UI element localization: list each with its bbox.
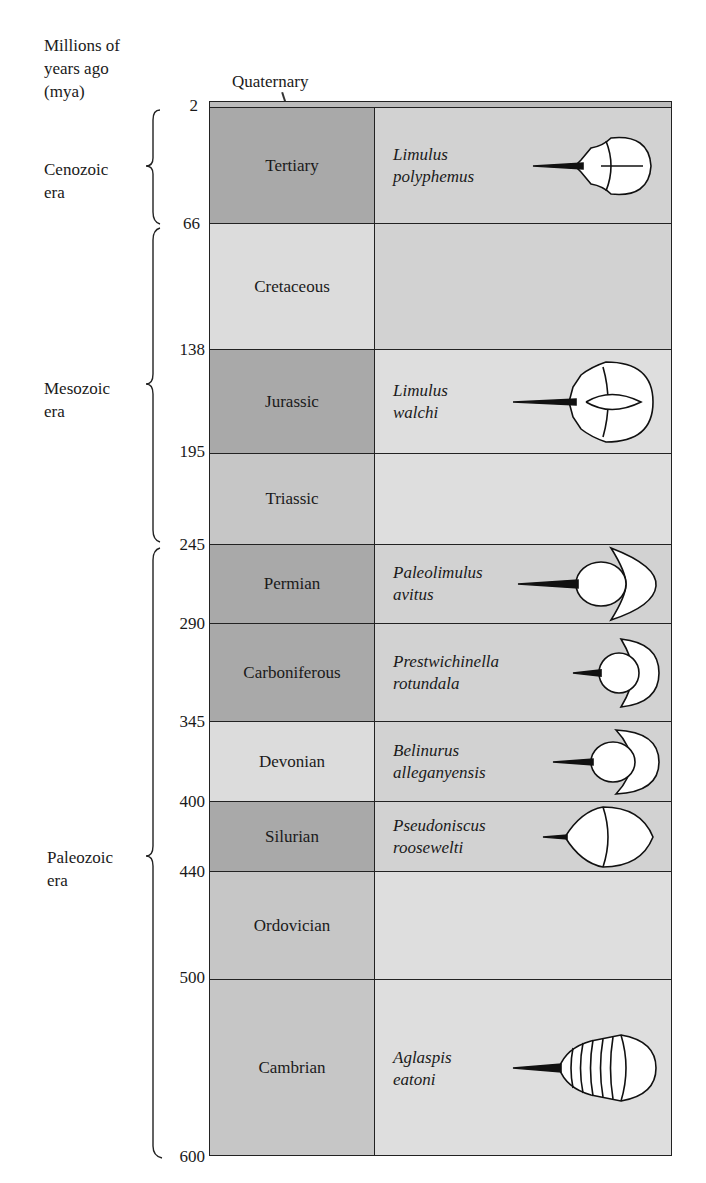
species: roosewelti: [393, 837, 486, 859]
genus: Paleolimulus: [393, 562, 483, 584]
fossil-cell: Paleolimulusavitus: [375, 545, 671, 623]
fossil-cell: Limuluswalchi: [375, 350, 671, 453]
geologic-time-table: Tertiary Limuluspolyphemus Cretaceous Ju…: [209, 101, 672, 1156]
prestwichinella-rotundala-icon: [571, 637, 661, 709]
species-name: Belinurusalleganyensis: [393, 740, 486, 784]
fossil-cell: [375, 872, 671, 979]
limulus-walchi-icon: [511, 357, 661, 447]
species: polyphemus: [393, 166, 474, 188]
row-ordovician: Ordovician: [210, 871, 671, 979]
species-name: Prestwichinellarotundala: [393, 651, 499, 695]
period-cambrian: Cambrian: [210, 980, 375, 1155]
period-carboniferous: Carboniferous: [210, 624, 375, 721]
belinurus-alleganyensis-icon: [551, 728, 661, 796]
fossil-cell: Pseudoniscusroosewelti: [375, 802, 671, 871]
aglaspis-eatoni-icon: [511, 1033, 661, 1103]
row-carboniferous: Carboniferous Prestwichinellarotundala: [210, 623, 671, 721]
species-name: Limuluswalchi: [393, 380, 448, 424]
paleolimulus-avitus-icon: [516, 546, 661, 622]
species: eatoni: [393, 1069, 452, 1091]
row-devonian: Devonian Belinurusalleganyensis: [210, 721, 671, 801]
fossil-cell: Limuluspolyphemus: [375, 108, 671, 223]
row-cambrian: Cambrian Aglaspiseatoni: [210, 979, 671, 1155]
period-ordovician: Ordovician: [210, 872, 375, 979]
row-tertiary: Tertiary Limuluspolyphemus: [210, 107, 671, 223]
species-name: Pseudoniscusroosewelti: [393, 815, 486, 859]
paleozoic-brace-icon: [146, 548, 162, 1158]
mesozoic-brace-icon: [146, 228, 160, 542]
period-cretaceous: Cretaceous: [210, 224, 375, 349]
species: alleganyensis: [393, 762, 486, 784]
period-silurian: Silurian: [210, 802, 375, 871]
fossil-cell: [375, 224, 671, 349]
fossil-cell: Prestwichinellarotundala: [375, 624, 671, 721]
genus: Limulus: [393, 380, 448, 402]
row-triassic: Triassic: [210, 453, 671, 544]
row-permian: Permian Paleolimulusavitus: [210, 544, 671, 623]
period-devonian: Devonian: [210, 722, 375, 801]
limulus-polyphemus-icon: [531, 126, 661, 206]
genus: Belinurus: [393, 740, 486, 762]
genus: Pseudoniscus: [393, 815, 486, 837]
cenozoic-brace-icon: [146, 110, 160, 224]
period-permian: Permian: [210, 545, 375, 623]
fossil-cell: Aglaspiseatoni: [375, 980, 671, 1155]
species-name: Limuluspolyphemus: [393, 144, 474, 188]
genus: Limulus: [393, 144, 474, 166]
species: walchi: [393, 402, 448, 424]
period-tertiary: Tertiary: [210, 108, 375, 223]
species-name: Aglaspiseatoni: [393, 1047, 452, 1091]
pseudoniscus-roosewelti-icon: [541, 805, 661, 869]
period-jurassic: Jurassic: [210, 350, 375, 453]
fossil-cell: Belinurusalleganyensis: [375, 722, 671, 801]
row-silurian: Silurian Pseudoniscusroosewelti: [210, 801, 671, 871]
period-triassic: Triassic: [210, 454, 375, 544]
fossil-cell: [375, 454, 671, 544]
species: rotundala: [393, 673, 499, 695]
row-cretaceous: Cretaceous: [210, 223, 671, 349]
species-name: Paleolimulusavitus: [393, 562, 483, 606]
quaternary-label: Quaternary: [232, 72, 308, 92]
row-jurassic: Jurassic Limuluswalchi: [210, 349, 671, 453]
genus: Aglaspis: [393, 1047, 452, 1069]
species: avitus: [393, 584, 483, 606]
genus: Prestwichinella: [393, 651, 499, 673]
era-brace-icons: [0, 0, 200, 1183]
